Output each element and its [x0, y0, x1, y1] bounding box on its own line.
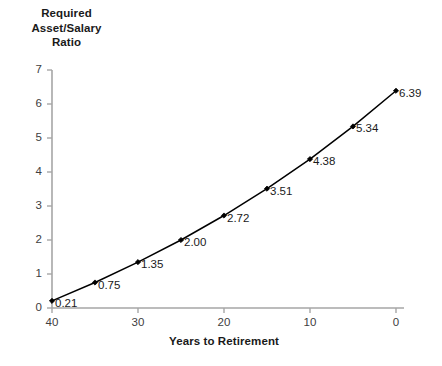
- plot-area: [0, 0, 442, 366]
- data-point-marker: [49, 298, 54, 303]
- series-line: [52, 91, 396, 301]
- data-point-label: 1.35: [141, 258, 163, 270]
- x-axis-tick-label: 10: [290, 316, 330, 328]
- y-axis-tick-label: 6: [24, 97, 42, 109]
- y-axis-tick-label: 4: [24, 165, 42, 177]
- data-point-label: 6.39: [399, 87, 421, 99]
- x-axis-tick-label: 30: [118, 316, 158, 328]
- data-point-label: 4.38: [313, 155, 335, 167]
- data-point-label: 0.75: [98, 279, 120, 291]
- axes: [47, 70, 404, 313]
- y-axis-tick-label: 3: [24, 199, 42, 211]
- data-point-marker: [92, 280, 97, 285]
- y-axis-tick-label: 2: [24, 233, 42, 245]
- data-point-label: 3.51: [270, 185, 292, 197]
- x-axis-tick-label: 20: [204, 316, 244, 328]
- chart-figure: Required Asset/Salary Ratio 01234567 403…: [0, 0, 442, 366]
- data-point-label: 2.00: [184, 236, 206, 248]
- data-point-label: 2.72: [227, 212, 249, 224]
- data-point-label: 5.34: [356, 122, 378, 134]
- x-axis-title: Years to Retirement: [52, 335, 396, 347]
- y-axis-tick-label: 1: [24, 267, 42, 279]
- y-axis-tick-label: 7: [24, 63, 42, 75]
- data-point-label: 0.21: [55, 297, 77, 309]
- y-axis-tick-label: 5: [24, 131, 42, 143]
- x-axis-tick-label: 0: [376, 316, 416, 328]
- y-axis-tick-label: 0: [24, 301, 42, 313]
- data-point-marker: [135, 260, 140, 265]
- data-series: [49, 88, 398, 303]
- x-axis-tick-label: 40: [32, 316, 72, 328]
